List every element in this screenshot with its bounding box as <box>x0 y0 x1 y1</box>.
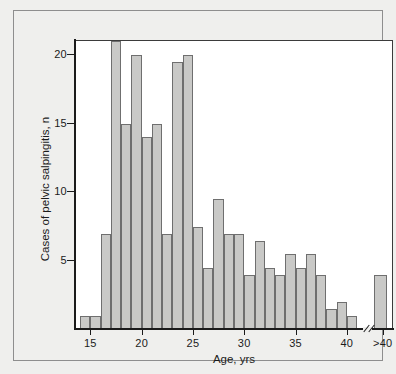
x-tick-mark <box>244 330 245 335</box>
histogram-bar <box>275 275 285 330</box>
histogram-bar <box>285 254 295 330</box>
x-tick-label: 20 <box>122 337 162 349</box>
histogram-bar <box>152 124 162 330</box>
y-tick-mark <box>67 191 75 192</box>
y-axis-label: Cases of pelvic salpingitis, n <box>39 74 51 304</box>
x-tick-label: 15 <box>70 337 110 349</box>
x-axis-label: Age, yrs <box>75 353 393 365</box>
histogram-bar <box>244 275 254 330</box>
histogram-bar <box>183 55 193 330</box>
histogram-bar <box>234 234 244 330</box>
x-tick-label: 40 <box>327 337 367 349</box>
histogram-bar <box>193 227 203 330</box>
histogram-bar <box>316 275 326 330</box>
y-tick-mark <box>67 54 75 55</box>
histogram-bar <box>213 199 223 330</box>
y-tick-label-wrap: 20 <box>24 48 67 60</box>
x-tick-mark <box>193 330 194 335</box>
x-tick-label: 25 <box>173 337 213 349</box>
histogram-bar <box>131 55 141 330</box>
histogram-bar <box>162 234 172 330</box>
x-tick-label: 30 <box>224 337 264 349</box>
y-axis-line <box>74 39 76 330</box>
y-tick-mark <box>67 260 75 261</box>
histogram-bar <box>265 268 275 330</box>
histogram-bar <box>172 62 182 330</box>
histogram-bar <box>296 268 306 330</box>
figure-container: 5101520 152025303540>40 Cases of pelvic … <box>0 0 396 374</box>
y-tick-label: 20 <box>37 48 67 60</box>
histogram-bar <box>224 234 234 330</box>
histogram-bar <box>374 275 387 330</box>
x-tick-label: 35 <box>276 337 316 349</box>
x-tick-mark <box>347 330 348 335</box>
x-tick-mark <box>142 330 143 335</box>
histogram-bar <box>255 241 265 330</box>
x-tick-mark <box>296 330 297 335</box>
x-tick-mark <box>90 330 91 335</box>
histogram-bar <box>326 309 336 330</box>
histogram-bar <box>101 234 111 330</box>
figure-frame: 5101520 152025303540>40 Cases of pelvic … <box>13 10 383 361</box>
histogram-bar <box>121 124 131 330</box>
x-tick-label: >40 <box>363 337 396 349</box>
x-tick-mark <box>383 330 384 335</box>
plot-panel <box>75 40 393 329</box>
histogram-bar <box>306 254 316 330</box>
histogram-bar <box>203 268 213 330</box>
histogram-bar <box>111 41 121 330</box>
histogram-bar <box>142 137 152 330</box>
y-tick-mark <box>67 123 75 124</box>
histogram-bar <box>337 302 347 330</box>
